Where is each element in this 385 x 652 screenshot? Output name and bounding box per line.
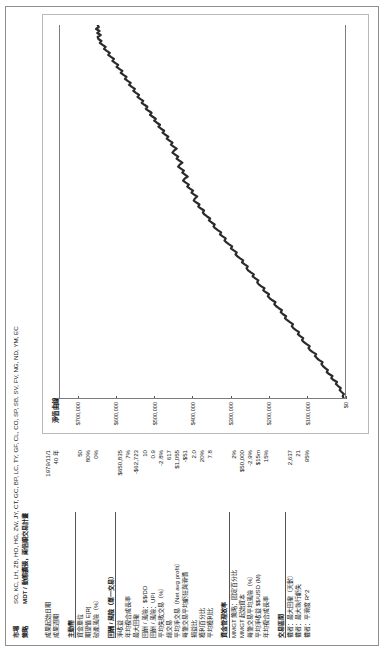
stat-row: MMGT 起始資本$50,000 — [238, 442, 246, 638]
chart-y-axis: $0$100,000$200,000$300,000$400,000$500,0… — [59, 399, 346, 433]
system-value: MDT / 動態擴張，兩倍順交易計畫 — [21, 10, 29, 604]
header-row-market: 市場 SO, KC, LH, ZB, HO, HG, ZW, JY, CT, G… — [12, 10, 20, 638]
chart-frame: 淨值曲線 $0$100,000$200,000$300,000$400,000$… — [42, 14, 369, 434]
stat-label: 回酬 / 風險（單一交易） — [107, 512, 116, 638]
stat-row: 年均複合成長率7% — [124, 442, 132, 638]
stat-label: 最大回撤 — [132, 512, 140, 638]
equity-chart-panel: 淨值曲線 $0$100,000$200,000$300,000$400,000$… — [40, 12, 375, 442]
stat-label: 破產風險（%） — [92, 512, 100, 638]
stat-row: 資金單位50 — [76, 442, 84, 638]
stat-row: 最大回撤-$62,723 — [132, 442, 140, 638]
stat-row: 回酬 / 風險：UPI0.9 — [149, 442, 157, 638]
stat-value: 2% — [230, 448, 238, 512]
stat-section-header: 交易區間 — [277, 442, 287, 638]
stat-value: 2.0 — [190, 448, 198, 512]
header-row-system: 策略 MDT / 動態擴張，兩倍順交易計畫 — [21, 10, 29, 638]
stat-value: 21 — [294, 448, 302, 512]
stat-section-header: 回酬 / 風險（單一交易） — [106, 442, 116, 638]
report-page: 市場 SO, KC, LH, ZB, HO, HG, ZW, JY, CT, G… — [0, 0, 385, 652]
stat-label: 損益比 — [190, 512, 198, 638]
stat-row: 權者：最大執行虧失21 — [294, 442, 302, 638]
stat-row: 獲利百分比20% — [198, 442, 206, 638]
market-label: 市場 — [12, 604, 20, 638]
report-stage: 市場 SO, KC, LH, ZB, HO, HG, ZW, JY, CT, G… — [0, 0, 385, 652]
report-header: 市場 SO, KC, LH, ZB, HO, HG, ZW, JY, CT, G… — [12, 10, 31, 638]
y-axis-tick-label: $300,000 — [228, 399, 234, 425]
stat-label: 總交易 — [165, 512, 173, 638]
stat-value: 0% — [92, 448, 100, 512]
y-axis-tick-label: $200,000 — [266, 399, 272, 425]
stat-row: 期望值 E[R]80% — [84, 442, 92, 638]
stat-label: 平均淨收益 $$/USD (M) — [254, 512, 262, 638]
y-axis-tick-label: $400,000 — [189, 399, 195, 425]
stat-value: 617 — [165, 448, 173, 512]
stat-value: -$51 — [181, 448, 189, 512]
stat-label: 獲利百分比 — [198, 512, 206, 638]
stat-section-header: 資金管理效率 — [220, 442, 230, 638]
stat-value: -2.9% — [246, 448, 254, 512]
stat-value: 50 — [76, 448, 84, 512]
y-axis-tick-label: $600,000 — [113, 399, 119, 425]
stat-label: 平均失敗交易（%） — [157, 512, 165, 638]
stat-label: 期望值 E[R] — [84, 512, 92, 638]
stat-label: 年均複合成長率 — [124, 512, 132, 638]
stat-row: 平均淨交易（Net avg profit）$1,055 — [173, 442, 181, 638]
stat-label: 年均複合成長率 — [262, 512, 270, 638]
stat-row: 權者：平滑度 R^295% — [303, 442, 311, 638]
stat-value: 10 — [141, 448, 149, 512]
stat-section-header: 主動幣 — [66, 442, 76, 638]
stat-value: 40 年 — [52, 448, 60, 512]
y-axis-tick-label: $500,000 — [151, 399, 157, 425]
stat-value: 2,637 — [286, 448, 294, 512]
stat-value: -2.8% — [157, 448, 165, 512]
stat-label: 權者：平滑度 R^2 — [303, 512, 311, 638]
stat-row: 平均獲利比7.8 — [206, 442, 214, 638]
stat-row: 平均失敗交易（%）-2.8% — [157, 442, 165, 638]
stat-value: 1979/11/1 — [44, 448, 52, 512]
stat-label: 交易區間 — [277, 512, 286, 638]
stat-label: 淨收益 — [116, 512, 124, 638]
system-label: 策略 — [21, 604, 29, 638]
stat-value: $15m — [254, 448, 262, 512]
stat-label: 權者：最大執行虧失 — [294, 512, 302, 638]
stat-label: 每筆交易平均風險（%） — [246, 512, 254, 638]
stat-label: 權者：最大回撤（天數） — [286, 512, 294, 638]
stat-row: 成果起始日期1979/11/1 — [44, 442, 52, 638]
equity-curve-line — [60, 25, 345, 398]
stat-label: 主動幣 — [67, 512, 76, 638]
statistics-table: 成果起始日期1979/11/1成果週期40 年主動幣資金單位50期望值 E[R]… — [40, 442, 375, 638]
stat-value: 7.8 — [206, 448, 214, 512]
y-axis-tick-label: $100,000 — [304, 399, 310, 425]
stat-value: 7% — [124, 448, 132, 512]
stat-label: 平均淨交易（Net avg profit） — [173, 512, 181, 638]
stat-row: 回酬 / 風險：$$/DD10 — [141, 442, 149, 638]
stat-row: 總交易617 — [165, 442, 173, 638]
market-value: SO, KC, LH, ZB, HO, HG, ZW, JY, CT, GC, … — [12, 10, 20, 604]
report-body: 成果起始日期1979/11/1成果週期40 年主動幣資金單位50期望值 E[R]… — [40, 12, 375, 638]
stat-row: 每筆交易平均風險（%）-2.9% — [246, 442, 254, 638]
stat-row: 年均複合成長率15% — [262, 442, 270, 638]
stat-value: -$62,723 — [132, 448, 140, 512]
stat-row: 損益比2.0 — [190, 442, 198, 638]
stat-label: MMGT 策略：固定百分比 — [230, 512, 238, 638]
stat-row: 成果週期40 年 — [52, 442, 60, 638]
stat-value: 95% — [303, 448, 311, 512]
stat-label: 回酬 / 風險：$$/DD — [141, 512, 149, 638]
stat-row: 淨收益$650,835 — [116, 442, 124, 638]
stat-row: 破產風險（%）0% — [92, 442, 100, 638]
y-axis-tick-label: $0 — [343, 399, 349, 408]
stat-value: $1,055 — [173, 448, 181, 512]
stat-row: 權者：最大回撤（天數）2,637 — [286, 442, 294, 638]
stat-value: $50,000 — [238, 448, 246, 512]
stat-row: 平均淨收益 $$/USD (M)$15m — [254, 442, 262, 638]
stat-label: 成果週期 — [52, 512, 60, 638]
stat-value: $650,835 — [116, 448, 124, 512]
stat-label: 回酬 / 風險：UPI — [149, 512, 157, 638]
chart-plot-area — [59, 25, 346, 399]
stat-label: 資金管理效率 — [220, 512, 229, 638]
stat-label: 成果起始日期 — [44, 512, 52, 638]
stat-value: 20% — [198, 448, 206, 512]
stat-value: 0.9 — [149, 448, 157, 512]
stat-label: 資金單位 — [76, 512, 84, 638]
stat-row: MMGT 策略：固定百分比2% — [230, 442, 238, 638]
